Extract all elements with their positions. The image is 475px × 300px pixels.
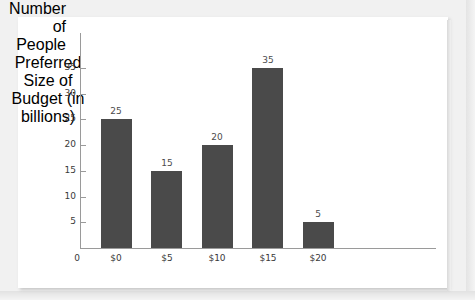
y-axis-title-line-2: People xyxy=(0,36,66,54)
y-axis-title-line-1: Number of xyxy=(0,0,66,36)
bar-value-label: 20 xyxy=(187,132,247,142)
y-axis-tick-label: 30 xyxy=(48,88,76,98)
y-axis-tick xyxy=(81,68,86,69)
bar-value-label: 15 xyxy=(137,158,197,168)
y-axis-tick-label: 20 xyxy=(48,139,76,149)
y-axis-tick-label: 25 xyxy=(48,113,76,123)
y-axis-tick xyxy=(81,119,86,120)
y-axis-title: Number of People xyxy=(0,0,66,54)
bar xyxy=(303,222,334,248)
x-axis-tick-label: $20 xyxy=(288,253,348,263)
bar-value-label: 5 xyxy=(288,209,348,219)
y-axis-tick xyxy=(81,94,86,95)
y-axis-tick xyxy=(81,197,86,198)
y-axis-tick-label: 10 xyxy=(48,191,76,201)
y-axis-tick-label: 15 xyxy=(48,165,76,175)
y-axis-tick xyxy=(81,222,86,223)
bar xyxy=(101,119,132,248)
bar-chart: Number of People Preferred Size of Budge… xyxy=(0,0,475,300)
bar-value-label: 35 xyxy=(238,55,298,65)
x-axis-title-line-1: Preferred Size of xyxy=(0,54,96,90)
bar xyxy=(202,145,233,248)
chart-page: Number of People Preferred Size of Budge… xyxy=(0,0,475,300)
bar xyxy=(151,171,182,248)
y-axis-tick xyxy=(81,145,86,146)
y-axis-tick xyxy=(81,171,86,172)
bar xyxy=(252,68,283,248)
bar-value-label: 25 xyxy=(86,106,146,116)
x-axis-line xyxy=(80,248,436,249)
y-axis-tick-label: 5 xyxy=(48,216,76,226)
y-axis-tick-label: 35 xyxy=(48,62,76,72)
y-axis-origin-label: 0 xyxy=(52,253,80,263)
y-axis-line xyxy=(80,33,81,249)
